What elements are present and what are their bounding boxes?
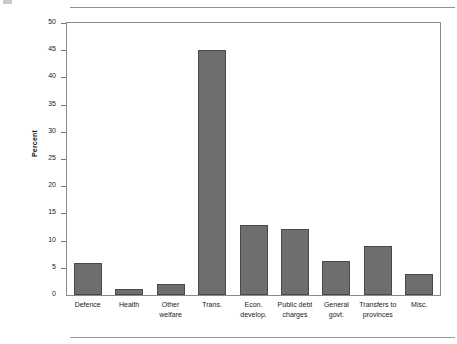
x-axis-labels: DefenceHealthOtherwelfareTrans.Econ.deve…	[67, 300, 440, 340]
bar	[157, 284, 185, 295]
bar-slot	[240, 23, 268, 295]
bar	[198, 50, 226, 295]
y-tick-mark	[61, 268, 66, 269]
y-tick-mark	[61, 23, 66, 24]
y-tick-mark	[61, 77, 66, 78]
y-tick-mark	[61, 50, 66, 51]
x-axis-label-line: Misc.	[393, 300, 446, 310]
y-tick-label: 10	[48, 236, 56, 243]
y-tick-mark	[61, 186, 66, 187]
bar-slot	[198, 23, 226, 295]
x-axis-label-line: provinces	[351, 310, 404, 320]
y-tick-label: 40	[48, 72, 56, 79]
y-tick-label: 30	[48, 127, 56, 134]
y-tick-mark	[61, 159, 66, 160]
y-tick-label: 50	[48, 18, 56, 25]
bar-slot	[115, 23, 143, 295]
bar-slot	[364, 23, 392, 295]
y-tick-label: 15	[48, 208, 56, 215]
y-tick-label: 0	[52, 290, 56, 297]
bar	[322, 261, 350, 295]
bar-slot	[405, 23, 433, 295]
y-axis-title: Percent	[31, 104, 38, 184]
y-tick-label: 35	[48, 100, 56, 107]
y-tick-label: 5	[52, 263, 56, 270]
x-axis-label: Misc.	[393, 300, 446, 310]
bar	[115, 289, 143, 295]
bar-series	[67, 23, 440, 295]
y-tick-label: 45	[48, 45, 56, 52]
bar	[281, 229, 309, 295]
y-tick-label: 20	[48, 181, 56, 188]
bar	[364, 246, 392, 295]
x-axis-label-line: welfare	[144, 310, 197, 320]
y-tick-mark	[61, 105, 66, 106]
y-tick-label: 25	[48, 154, 56, 161]
bar	[405, 274, 433, 295]
y-tick-mark	[61, 213, 66, 214]
bar-chart: Percent 05101520253035404550 DefenceHeal…	[0, 0, 457, 344]
y-tick-mark	[61, 241, 66, 242]
bar-slot	[157, 23, 185, 295]
y-tick-mark	[61, 132, 66, 133]
bar-slot	[281, 23, 309, 295]
bar	[240, 225, 268, 295]
bar-slot	[322, 23, 350, 295]
bar-slot	[74, 23, 102, 295]
bar	[74, 263, 102, 295]
